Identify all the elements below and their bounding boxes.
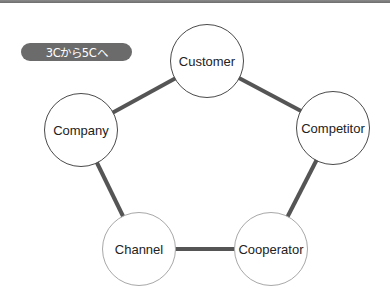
node-label-company: Company	[53, 123, 109, 138]
node-label-cooperator: Cooperator	[238, 242, 303, 257]
node-label-channel: Channel	[115, 242, 163, 257]
node-cooperator: Cooperator	[234, 212, 308, 286]
node-label-customer: Customer	[179, 54, 235, 69]
node-customer: Customer	[170, 24, 244, 98]
node-channel: Channel	[102, 212, 176, 286]
node-company: Company	[44, 93, 118, 167]
node-label-competitor: Competitor	[301, 121, 365, 136]
node-competitor: Competitor	[296, 91, 370, 165]
